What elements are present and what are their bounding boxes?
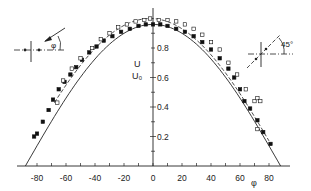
inset-left-probe-diagram: φ bbox=[14, 28, 65, 62]
x-axis-label: φ bbox=[251, 178, 257, 188]
chart: -80-60-40-200204060800.20.40.60.8 U U₀ φ… bbox=[0, 0, 311, 191]
filled-marker bbox=[159, 23, 162, 26]
open-marker bbox=[259, 99, 262, 102]
filled-marker bbox=[137, 24, 140, 27]
open-marker bbox=[209, 40, 212, 43]
filled-marker bbox=[151, 23, 154, 26]
x-tick-label: 60 bbox=[235, 173, 245, 183]
open-marker bbox=[70, 67, 73, 70]
filled-marker bbox=[192, 35, 195, 38]
filled-marker bbox=[144, 23, 147, 26]
filled-marker bbox=[262, 130, 265, 133]
open-marker bbox=[244, 88, 247, 91]
y-tick-label: 0.8 bbox=[157, 43, 169, 53]
open-marker bbox=[235, 73, 238, 76]
filled-marker bbox=[95, 45, 98, 48]
x-tick-label: 0 bbox=[151, 173, 156, 183]
open-marker bbox=[99, 38, 102, 41]
filled-marker bbox=[218, 57, 221, 60]
open-marker bbox=[218, 48, 221, 51]
filled-marker bbox=[227, 67, 230, 70]
open-marker bbox=[143, 18, 146, 21]
filled-marker bbox=[243, 99, 246, 102]
filled-marker bbox=[51, 98, 54, 101]
filled-marker bbox=[75, 66, 78, 69]
filled-marker bbox=[119, 30, 122, 33]
filled-marker bbox=[238, 88, 241, 91]
open-marker bbox=[125, 23, 128, 26]
filled-marker bbox=[201, 40, 204, 43]
x-tick-label: 20 bbox=[177, 173, 187, 183]
open-marker bbox=[90, 46, 93, 49]
filled-marker bbox=[166, 24, 169, 27]
inset-left-angle-label: φ bbox=[51, 41, 56, 50]
filled-marker bbox=[175, 27, 178, 30]
filled-marker bbox=[88, 51, 91, 54]
filled-marker bbox=[41, 120, 44, 123]
filled-marker bbox=[47, 108, 50, 111]
filled-marker bbox=[128, 27, 131, 30]
open-marker bbox=[117, 26, 120, 29]
filled-marker bbox=[57, 88, 60, 91]
y-tick-label: 0.2 bbox=[157, 132, 169, 142]
filled-marker bbox=[209, 48, 212, 51]
open-marker bbox=[157, 18, 160, 21]
x-tick-label: -60 bbox=[60, 173, 73, 183]
open-marker bbox=[201, 33, 204, 36]
open-marker bbox=[134, 20, 137, 23]
x-tick-label: 40 bbox=[206, 173, 216, 183]
open-marker bbox=[183, 23, 186, 26]
open-marker bbox=[175, 20, 178, 23]
filled-marker bbox=[183, 30, 186, 33]
open-marker bbox=[227, 61, 230, 64]
y-tick-label: 0.6 bbox=[157, 73, 169, 83]
x-tick-label: -20 bbox=[118, 173, 131, 183]
filled-marker bbox=[256, 119, 259, 122]
filled-marker bbox=[69, 73, 72, 76]
y-axis-label-bottom: U₀ bbox=[132, 71, 142, 81]
filled-marker bbox=[248, 107, 251, 110]
open-marker bbox=[61, 79, 64, 82]
y-axis-label-top: U bbox=[134, 59, 141, 69]
filled-marker bbox=[35, 132, 38, 135]
open-marker bbox=[148, 17, 151, 20]
open-marker bbox=[256, 127, 259, 130]
x-tick-label: 80 bbox=[264, 173, 274, 183]
axes: -80-60-40-200204060800.20.40.60.8 bbox=[17, 8, 290, 183]
inset-right-angle-label: 45° bbox=[281, 40, 293, 49]
open-marker bbox=[166, 18, 169, 21]
inset-right-probe-diagram: 45° bbox=[247, 35, 293, 68]
open-marker bbox=[79, 57, 82, 60]
open-marker bbox=[192, 27, 195, 30]
x-tick-label: -40 bbox=[89, 173, 102, 183]
open-marker bbox=[56, 101, 59, 104]
x-tick-label: -80 bbox=[31, 173, 44, 183]
filled-marker bbox=[269, 142, 272, 145]
open-marker bbox=[108, 32, 111, 35]
y-tick-label: 0.4 bbox=[157, 102, 169, 112]
